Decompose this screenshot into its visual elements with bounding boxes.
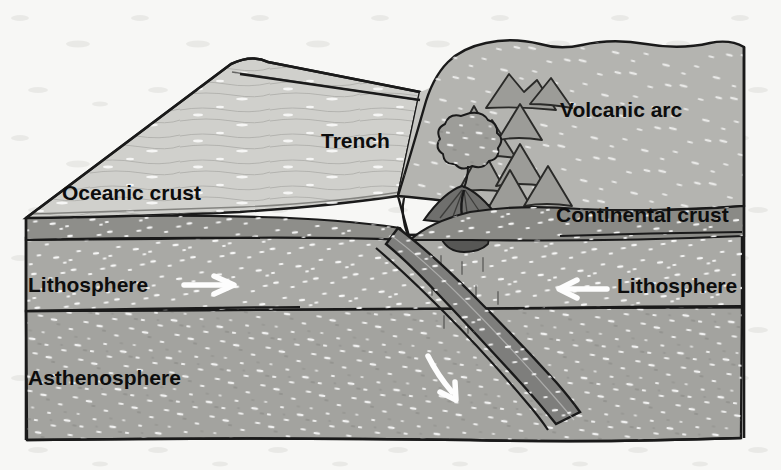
- layer-lithosphere: [26, 232, 742, 311]
- label-trench: Trench: [321, 129, 390, 152]
- label-asthenosphere: Asthenosphere: [28, 366, 181, 389]
- label-volcanic-arc: Volcanic arc: [560, 98, 682, 121]
- diagram-canvas: Oceanic crust Trench Volcanic arc Contin…: [0, 0, 781, 470]
- subduction-zone-figure: Oceanic crust Trench Volcanic arc Contin…: [0, 0, 781, 470]
- label-oceanic-crust: Oceanic crust: [62, 181, 201, 204]
- label-lithosphere-left: Lithosphere: [28, 273, 148, 296]
- label-continental-crust: Continental crust: [556, 203, 729, 226]
- label-lithosphere-right: Lithosphere: [617, 274, 737, 297]
